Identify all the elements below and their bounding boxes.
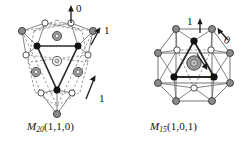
cluster-structure-figure: 0 1 1	[0, 0, 245, 144]
caption-M15-indices: (1,0,1)	[167, 120, 197, 132]
caption-M20-subscript: 20	[36, 125, 44, 134]
caption-M15: M15(1,0,1)	[150, 120, 197, 132]
M15-label-1-lower: 1	[209, 70, 215, 82]
caption-M20-symbol: M	[27, 120, 36, 132]
caption-M20: M20(1,1,0)	[27, 120, 74, 132]
caption-M20-indices: (1,1,0)	[44, 120, 74, 132]
M15-label-1-top: 1	[187, 15, 193, 27]
caption-M15-subscript: 15	[159, 125, 167, 134]
M15-arrow-1-top-icon	[197, 18, 202, 33]
caption-M15-symbol: M	[150, 120, 159, 132]
